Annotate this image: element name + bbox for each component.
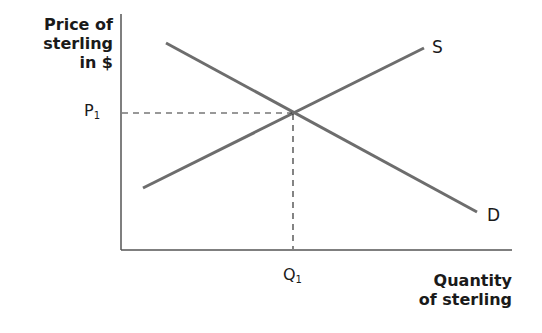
- price-tick-sub: 1: [94, 110, 100, 121]
- price-tick-main: P: [84, 101, 94, 120]
- demand-curve-label: D: [487, 205, 500, 225]
- x-axis-title-line-2: of sterling: [419, 290, 512, 309]
- demand-curve: [166, 43, 477, 212]
- y-axis-title: Price of sterling in $: [43, 15, 113, 72]
- x-axis-title: Quantity of sterling: [419, 271, 512, 309]
- x-axis-title-line-1: Quantity: [419, 271, 512, 290]
- supply-curve: [143, 48, 424, 188]
- price-tick-label: P1: [84, 101, 100, 121]
- supply-curve-label: S: [432, 37, 443, 57]
- quantity-tick-main: Q: [283, 265, 296, 284]
- y-axis-title-line-2: sterling: [43, 34, 113, 53]
- y-axis-title-line-1: Price of: [43, 15, 113, 34]
- quantity-tick-sub: 1: [296, 274, 302, 285]
- y-axis-title-line-3: in $: [43, 53, 113, 72]
- quantity-tick-label: Q1: [283, 265, 302, 285]
